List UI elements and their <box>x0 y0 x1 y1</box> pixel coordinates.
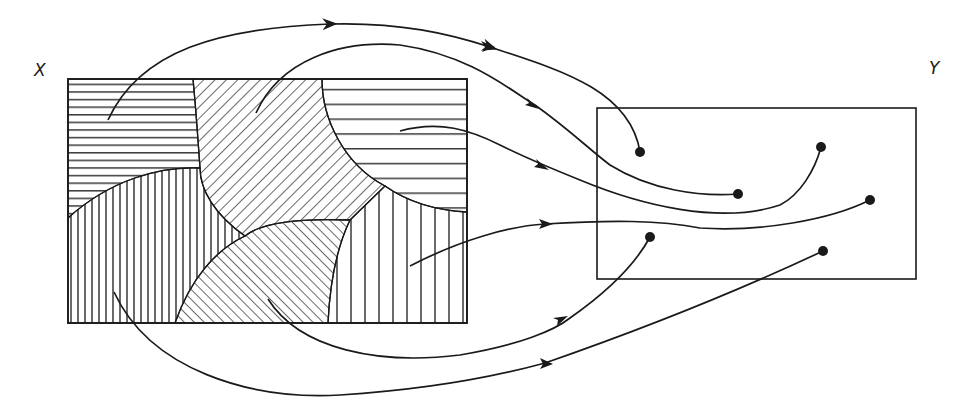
point-icon <box>645 232 655 242</box>
point-icon <box>818 246 828 256</box>
point-icon <box>635 147 645 157</box>
codomain-label: Y <box>929 58 939 78</box>
domain-label: X <box>34 60 46 80</box>
point-icon <box>865 195 875 205</box>
point-icon <box>816 142 826 152</box>
arrowhead-icon <box>534 159 549 170</box>
arrowheads <box>481 41 568 369</box>
image-points <box>635 142 875 256</box>
mapping-diagram <box>0 0 970 406</box>
arrow-bottom-right-to-y <box>410 200 870 266</box>
point-icon <box>733 189 743 199</box>
arrowhead-icon <box>481 41 495 52</box>
domain-set-x <box>68 79 467 323</box>
codomain-box <box>597 108 916 279</box>
